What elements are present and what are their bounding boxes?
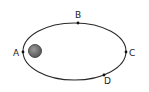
- point-label-c: C: [129, 48, 135, 58]
- point-label-d: D: [104, 76, 111, 86]
- orbit-point-b: [77, 22, 80, 25]
- central-body: [29, 45, 42, 58]
- orbit-point-c: [125, 51, 128, 54]
- orbit-diagram: ABCD: [0, 0, 149, 92]
- point-label-b: B: [75, 10, 81, 20]
- orbit-point-a: [22, 51, 25, 54]
- point-label-a: A: [13, 48, 20, 58]
